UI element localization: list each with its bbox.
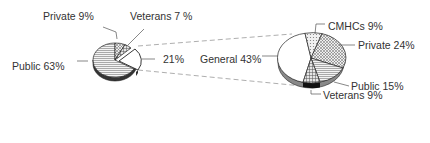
label-big-cmhcs: CMHCs 9% — [328, 20, 383, 32]
label-small-general: 21% — [163, 53, 184, 65]
label-big-general: General 43% — [200, 53, 261, 65]
label-big-private: Private 24% — [358, 39, 415, 51]
pie-of-pie-chart: Private 9% Veterans 7 % Public 63% 21% G… — [0, 0, 430, 143]
small-pie — [77, 27, 155, 81]
label-small-public: Public 63% — [12, 60, 65, 72]
label-small-private: Private 9% — [43, 10, 94, 22]
label-small-veterans: Veterans 7 % — [130, 10, 192, 22]
label-big-veterans: Veterans 9% — [323, 89, 383, 101]
